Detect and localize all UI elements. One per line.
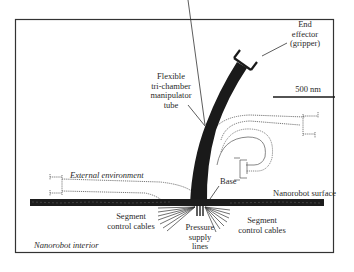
nanorobot-interior-label: Nanorobot interior (34, 241, 99, 251)
scale-bar-label: 500 nm (288, 85, 328, 95)
pressure-supply-lines-label: Pressure supply lines (182, 223, 218, 252)
manipulator-tube (190, 62, 247, 204)
right-lower-alt-manipulator (217, 129, 273, 180)
segment-control-cables-left-label: Segment control cables (104, 212, 158, 231)
manipulator-tube-label: Flexible tri-chamber manipulator tube (146, 72, 196, 110)
nanorobot-surface (30, 199, 324, 206)
external-environment-label: External environment (70, 171, 144, 181)
pressure-supply-lines (197, 205, 203, 216)
right-upper-alt-manipulator (211, 112, 318, 140)
segment-control-cables-right-label: Segment control cables (234, 216, 290, 235)
base-label: Base (220, 177, 237, 187)
base-leader (210, 186, 219, 199)
end-effector-label: End effector (gripper) (283, 20, 327, 49)
nanorobot-surface-label: Nanorobot surface (273, 189, 336, 199)
